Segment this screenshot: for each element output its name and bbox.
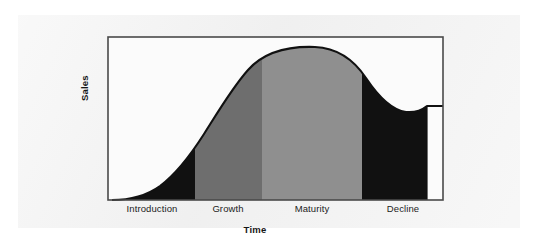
stage-fill-maturity [262,37,362,200]
x-axis-title: Time [244,224,267,235]
stage-label-maturity: Maturity [295,203,330,214]
screenshot-root: W 3P [0,0,539,246]
y-axis-title: Sales [79,75,90,101]
stage-label-growth: Growth [212,203,243,214]
stage-label-decline: Decline [387,203,419,214]
stage-label-introduction: Introduction [127,203,178,214]
product-life-cycle-chart: Sales Time Introduction Growth Maturity … [0,0,539,246]
plot-svg [0,0,539,246]
